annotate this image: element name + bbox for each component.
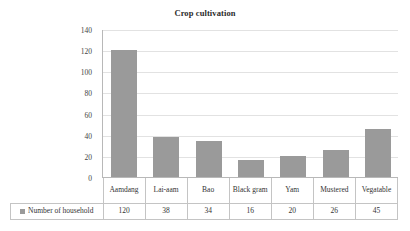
bar-slot — [145, 30, 187, 177]
y-tick-label: 140 — [81, 26, 92, 35]
category-header-cell: Bao — [187, 178, 229, 204]
category-header-cell: Yam — [271, 178, 313, 204]
category-label: Bao — [188, 186, 229, 194]
category-label: Lai-aam — [146, 186, 187, 194]
bar-slot — [272, 30, 314, 177]
bar — [365, 129, 391, 177]
data-table: Aamdang Lai-aam Bao Black gram Yam Muste… — [10, 178, 398, 220]
y-tick-label: 80 — [85, 89, 93, 98]
y-tick-label: 60 — [85, 110, 93, 119]
chart-container: Crop cultivation 140 120 100 80 60 40 20… — [0, 0, 410, 231]
chart-title: Crop cultivation — [0, 8, 410, 18]
bar — [238, 160, 264, 177]
category-header-cell: Mustered — [313, 178, 355, 204]
table-row-categories: Aamdang Lai-aam Bao Black gram Yam Muste… — [11, 178, 398, 204]
bar-slot — [188, 30, 230, 177]
value-cell: 26 — [313, 204, 355, 220]
legend-entry: Number of household — [11, 204, 104, 220]
category-label: Vegatable — [356, 186, 397, 194]
y-tick-label: 40 — [85, 131, 93, 140]
bars-layer — [103, 30, 398, 177]
category-label: Aamdang — [104, 186, 145, 194]
value-cell: 38 — [145, 204, 187, 220]
bar — [153, 137, 179, 177]
value-cell: 16 — [229, 204, 271, 220]
bar-slot — [230, 30, 272, 177]
value-cell: 20 — [271, 204, 313, 220]
category-header-cell: Aamdang — [103, 178, 145, 204]
y-tick-label: 120 — [81, 47, 92, 56]
category-header-cell: Black gram — [229, 178, 271, 204]
category-label: Mustered — [314, 186, 355, 194]
plot-area — [102, 30, 398, 178]
y-axis: 140 120 100 80 60 40 20 0 — [60, 30, 98, 178]
category-label: Yam — [272, 186, 313, 194]
bar-slot — [314, 30, 356, 177]
value-cell: 120 — [103, 204, 145, 220]
bar — [196, 141, 222, 177]
y-tick-label: 20 — [85, 152, 93, 161]
category-label: Black gram — [230, 186, 271, 194]
bar-slot — [357, 30, 399, 177]
square-marker-icon — [20, 209, 25, 214]
value-cell: 45 — [355, 204, 397, 220]
bar — [323, 150, 349, 177]
value-cell: 34 — [187, 204, 229, 220]
category-header-cell: Vegatable — [355, 178, 397, 204]
y-tick-label: 100 — [81, 68, 92, 77]
table-row-values: Number of household 120 38 34 16 20 26 4… — [11, 204, 398, 220]
category-header-cell: Lai-aam — [145, 178, 187, 204]
legend-label: Number of household — [28, 207, 93, 215]
bar-slot — [103, 30, 145, 177]
bar — [111, 50, 137, 177]
table-corner-cell — [11, 178, 104, 204]
bar — [280, 156, 306, 177]
